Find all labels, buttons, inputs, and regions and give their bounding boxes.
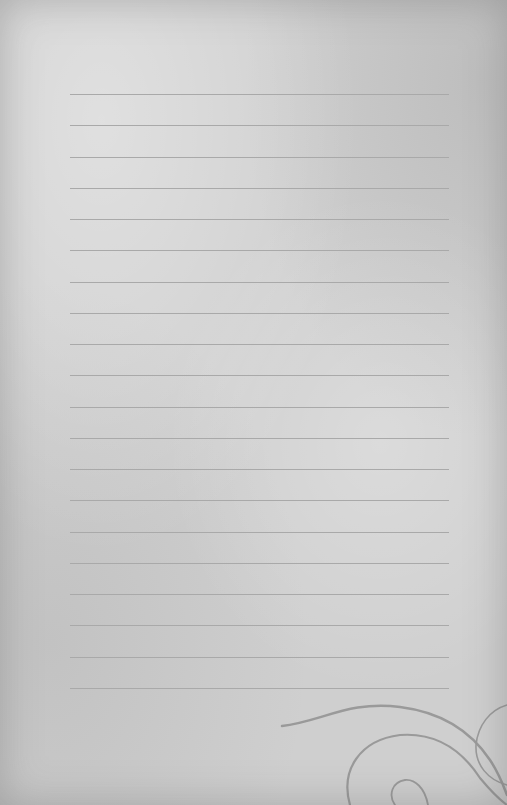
lined-paper: [0, 0, 507, 805]
decorative-swirl-icon: [0, 0, 507, 805]
